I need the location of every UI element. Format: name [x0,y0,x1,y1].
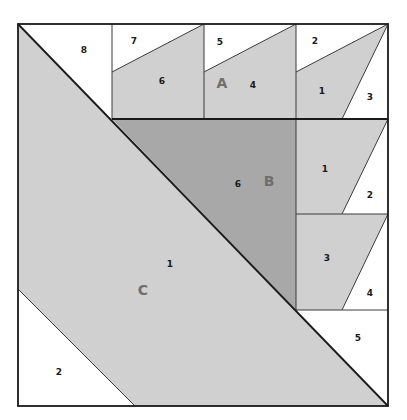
label-7: 7 [131,36,137,46]
label-c1: 1 [167,259,173,269]
label-2: 2 [312,36,318,46]
section-letter-a: A [217,75,228,91]
label-8: 8 [81,45,87,55]
label-b3: 3 [324,253,330,263]
label-a6: 6 [159,76,165,86]
label-a1: 1 [319,86,325,96]
section-letter-c: C [138,282,148,298]
label-a4: 4 [250,80,256,90]
label-c2: 2 [56,367,62,377]
label-b4: 4 [367,288,373,298]
label-b5: 5 [355,333,361,343]
label-5: 5 [217,37,223,47]
label-b1: 1 [322,164,328,174]
label-b2: 2 [367,190,373,200]
section-letter-b: B [264,173,275,189]
quilt-block-diagram: 8 7 6 5 4 2 1 3 1 2 3 4 5 6 1 2 A B C [0,0,407,420]
label-b6: 6 [235,179,241,189]
label-3: 3 [367,92,373,102]
